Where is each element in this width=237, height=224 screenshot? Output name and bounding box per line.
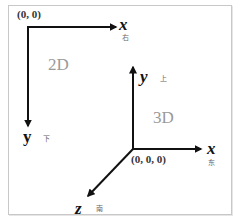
two-d-axes <box>27 26 116 126</box>
two-d-x-axis-label: x <box>119 16 128 33</box>
three-d-label: 3D <box>153 109 174 126</box>
three-d-z-axis-label: z <box>75 200 82 217</box>
three-d-axes <box>88 67 201 196</box>
two-d-label: 2D <box>48 56 69 73</box>
three-d-origin-label: (0, 0, 0) <box>131 154 166 165</box>
three-d-z-direction-label: 南 <box>96 206 103 213</box>
three-d-y-axis-label: y <box>140 68 148 85</box>
three-d-x-direction-label: 东 <box>208 160 215 167</box>
two-d-x-direction-label: 右 <box>122 35 129 42</box>
three-d-z-axis-arrow <box>88 149 133 196</box>
three-d-y-direction-label: 上 <box>160 76 167 83</box>
two-d-y-axis-label: y <box>23 128 32 145</box>
two-d-origin-label: (0, 0) <box>17 9 41 20</box>
two-d-y-direction-label: 下 <box>43 136 50 143</box>
three-d-x-axis-label: x <box>207 140 216 157</box>
